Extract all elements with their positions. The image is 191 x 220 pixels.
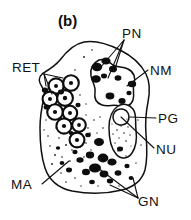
label-nu: NU: [156, 142, 176, 157]
label-pg: PG: [158, 111, 178, 126]
cell-diagram-svg: (b): [0, 0, 191, 220]
label-nm: NM: [150, 63, 172, 78]
label-gn: GN: [138, 194, 159, 209]
label-ret: RET: [12, 60, 40, 75]
panel-label: (b): [58, 12, 77, 29]
vesicle: [63, 75, 79, 91]
label-pn: PN: [122, 26, 142, 41]
label-ma: MA: [11, 177, 32, 192]
figure-panel-b: (b): [0, 0, 191, 220]
vesicle: [56, 118, 71, 133]
vesicle: [72, 118, 86, 132]
